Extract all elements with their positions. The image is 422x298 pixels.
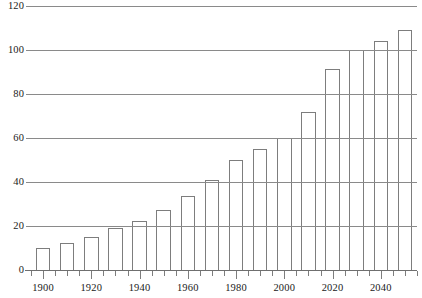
x-axis-tick-label: 2040 [370,283,392,294]
bar-1950 [156,210,170,271]
x-axis-tick-mark-1925 [103,271,104,276]
bar-1980 [229,160,243,270]
x-axis-tick-mark-1915 [79,271,80,276]
y-axis-tick-mark [26,226,31,227]
gridline-y-100 [31,50,417,51]
bar-1960 [181,196,195,270]
gridline-y-60 [31,138,417,139]
x-axis-tick-label: 1940 [129,283,151,294]
x-axis-tick-label: 2000 [273,283,295,294]
gridline-y-40 [31,182,417,183]
y-axis-tick-mark [26,6,31,7]
y-axis-tick-label: 0 [19,265,24,276]
y-axis-tick-label: 100 [8,45,24,56]
y-axis-tick-label: 60 [13,133,24,144]
x-axis-tick-mark-1895 [31,271,32,276]
y-axis-tick-mark [26,182,31,183]
x-axis-tick-mark-2025 [345,271,346,276]
x-axis-tick-mark-1955 [176,271,177,276]
y-axis-tick-mark [26,50,31,51]
y-axis-tick-mark [26,138,31,139]
gridline-y-20 [31,226,417,227]
x-axis-tick-mark-1995 [272,271,273,276]
x-axis-tick-label: 1960 [177,283,199,294]
y-axis-tick-label: 120 [8,1,24,12]
y-axis-tick-label: 20 [13,221,24,232]
x-axis-tick-mark-1900 [43,271,44,279]
x-axis-tick-mark-2040 [381,271,382,279]
x-axis-tick-mark-2020 [333,271,334,279]
x-axis-tick-mark-2035 [369,271,370,276]
x-axis-tick-mark-1985 [248,271,249,276]
bar-2000 [277,138,291,270]
x-axis-tick-mark-1945 [152,271,153,276]
bar-1910 [60,243,74,271]
x-axis-tick-mark-2050 [405,271,406,276]
y-axis-tick-label: 80 [13,89,24,100]
x-axis-tick-mark-1910 [67,271,68,276]
bar-1920 [84,237,98,270]
x-axis-tick-mark-2030 [357,271,358,276]
x-axis-tick-mark-1970 [212,271,213,276]
y-axis-tick-mark [26,94,31,95]
x-axis-tick-mark-1935 [128,271,129,276]
x-axis-tick-mark-1975 [224,271,225,276]
x-axis-tick-mark-2045 [393,271,394,276]
x-axis-tick-mark-1940 [140,271,141,279]
bar-2020 [325,69,339,270]
x-axis-tick-mark-1950 [164,271,165,276]
x-axis-tick-mark-1905 [55,271,56,276]
x-axis-tick-mark-2000 [284,271,285,279]
bar-2040 [374,41,388,270]
x-axis-tick-label: 1980 [225,283,247,294]
gridline-y-120 [31,6,417,7]
x-axis-tick-mark-2005 [296,271,297,276]
x-axis-tick-mark-2055 [417,271,418,276]
x-axis-line [25,270,417,271]
y-axis-tick-label: 40 [13,177,24,188]
x-axis-tick-mark-1930 [115,271,116,276]
bar-2030 [349,50,363,270]
gridline-y-80 [31,94,417,95]
bar-1940 [132,221,146,271]
x-axis-tick-label: 2020 [322,283,344,294]
bar-2010 [301,112,315,270]
x-axis-tick-mark-1965 [200,271,201,276]
x-axis-tick-mark-1920 [91,271,92,279]
x-axis-tick-label: 1920 [80,283,102,294]
x-axis-tick-mark-2015 [321,271,322,276]
x-axis-tick-label: 1900 [32,283,54,294]
bar-1900 [36,248,50,270]
bar-1930 [108,228,122,270]
x-axis-tick-mark-1990 [260,271,261,276]
x-axis-tick-mark-1980 [236,271,237,279]
x-axis-tick-mark-1960 [188,271,189,279]
bar-2050 [398,30,412,270]
plot-area [31,6,417,270]
x-axis-tick-mark-2010 [308,271,309,276]
bar-chart: 020406080100120 190019201940196019802000… [0,0,422,298]
bar-1990 [253,149,267,270]
bar-1970 [205,180,219,270]
